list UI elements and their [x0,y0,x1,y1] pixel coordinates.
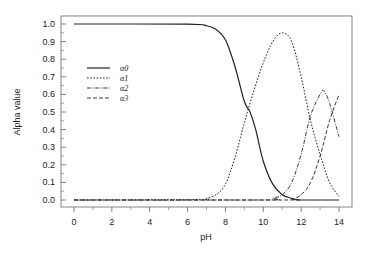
y-axis-ticks: 0.00.10.20.30.40.50.60.70.80.91.0 [42,19,66,205]
y-tick-label: 1.0 [42,19,55,29]
y-tick-label: 0.8 [42,54,55,64]
series-line-0 [74,24,339,200]
y-tick-label: 0.1 [42,177,55,187]
data-series [74,24,339,200]
x-tick-label: 6 [185,217,190,227]
legend-label: α2 [120,84,128,93]
y-tick-label: 0.3 [42,142,55,152]
plot-frame [61,16,352,207]
y-tick-label: 0.5 [42,107,55,117]
legend-label: α1 [120,74,128,83]
alpha-vs-ph-chart: 0.00.10.20.30.40.50.60.70.80.91.0 024681… [0,0,371,259]
y-tick-label: 0.9 [42,37,55,47]
series-line-1 [74,33,339,200]
y-tick-label: 0.4 [42,125,55,135]
y-axis-title: Alpha value [12,88,22,135]
x-tick-label: 8 [223,217,228,227]
y-tick-label: 0.2 [42,160,55,170]
y-tick-label: 0.0 [42,195,55,205]
series-line-2 [74,90,339,200]
x-axis-ticks: 02468101214 [71,207,344,227]
x-tick-label: 0 [71,217,76,227]
legend: α0α1α2α3 [87,64,128,103]
x-tick-label: 4 [147,217,152,227]
y-tick-label: 0.6 [42,89,55,99]
x-tick-label: 14 [334,217,344,227]
legend-label: α3 [120,94,128,103]
x-tick-label: 10 [258,217,268,227]
x-tick-label: 12 [296,217,306,227]
x-axis-title: pH [200,232,212,242]
x-tick-label: 2 [109,217,114,227]
legend-label: α0 [120,64,128,73]
series-line-3 [74,94,339,200]
y-tick-label: 0.7 [42,72,55,82]
